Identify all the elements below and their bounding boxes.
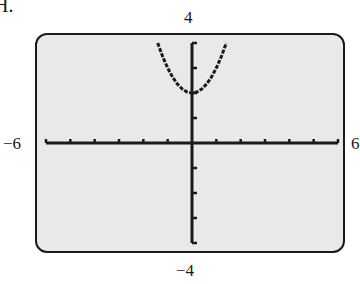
xmin-label: −6	[3, 135, 21, 152]
xmax-label: 6	[351, 135, 360, 152]
figure-label: H.	[0, 0, 13, 17]
ymin-label: −4	[176, 262, 194, 279]
ymax-label: 4	[184, 9, 193, 26]
calculator-screen	[35, 33, 345, 253]
plot-area	[37, 35, 343, 251]
